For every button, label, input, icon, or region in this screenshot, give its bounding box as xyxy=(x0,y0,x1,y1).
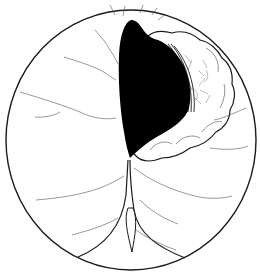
illustration-frame: Endoscopic line illustration: circular f… xyxy=(0,0,260,277)
endoscopic-view-illustration xyxy=(0,0,260,277)
